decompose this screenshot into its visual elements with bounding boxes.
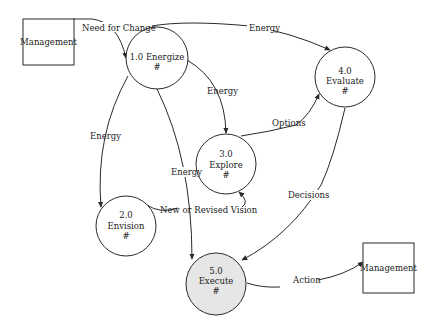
process-name: Explore <box>209 160 242 170</box>
flow-label-new-vision: New or Revised Vision <box>160 205 258 215</box>
flow-decisions-line[interactable] <box>242 108 345 260</box>
entity-management-input[interactable]: Management <box>20 19 77 65</box>
process-explore[interactable]: 3.0 Explore # <box>196 134 256 194</box>
process-mark: # <box>222 170 229 180</box>
flow-action-line[interactable] <box>247 283 280 287</box>
entity-management-output[interactable]: Management <box>360 243 417 293</box>
process-number: 3.0 <box>219 149 233 159</box>
flow-label-energy-envision: Energy <box>90 131 121 141</box>
process-name: Execute <box>199 276 234 286</box>
flow-label-need-for-change: Need for Change <box>82 23 156 33</box>
process-mark: # <box>212 286 219 296</box>
process-title: 1.0 Energize <box>130 52 185 62</box>
flow-label-energy-explore: Energy <box>207 86 238 96</box>
flow-action-line-2[interactable] <box>318 262 363 280</box>
process-mark: # <box>153 62 160 72</box>
process-name: Envision <box>108 221 145 231</box>
entity-label: Management <box>20 37 77 47</box>
flow-energy-to-envision-line[interactable] <box>100 76 128 207</box>
process-number: 5.0 <box>209 266 223 276</box>
flow-label-options: Options <box>272 118 306 128</box>
flow-label-energy-evaluate: Energy <box>249 23 280 33</box>
flow-label-action: Action <box>292 275 321 285</box>
process-number: 2.0 <box>119 210 133 220</box>
process-number: 4.0 <box>338 66 352 76</box>
flow-label-decisions: Decisions <box>288 190 329 200</box>
process-evaluate[interactable]: 4.0 Evaluate # <box>315 47 375 107</box>
process-energize[interactable]: 1.0 Energize # <box>126 27 188 89</box>
data-flow-diagram: Management Management 1.0 Energize # 2.0… <box>0 0 434 320</box>
process-name: Evaluate <box>326 76 364 86</box>
flow-label-energy-execute: Energy <box>171 167 202 177</box>
process-envision[interactable]: 2.0 Envision # <box>96 196 156 256</box>
flow-energy-to-explore-line[interactable] <box>187 60 226 133</box>
entity-label: Management <box>360 263 417 273</box>
process-execute[interactable]: 5.0 Execute # <box>186 253 246 315</box>
flow-options-line[interactable] <box>241 94 319 136</box>
process-mark: # <box>122 231 129 241</box>
process-mark: # <box>341 86 348 96</box>
